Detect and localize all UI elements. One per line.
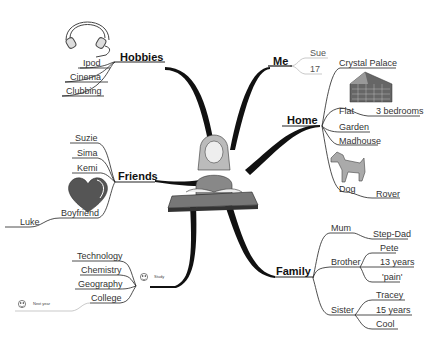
node-technology[interactable]: Technology <box>77 251 123 261</box>
node-college[interactable]: College <box>91 293 122 303</box>
node-clubbing[interactable]: Clubbing <box>66 86 102 96</box>
headphones-icon <box>65 22 110 57</box>
node-17[interactable]: 17 <box>310 64 320 74</box>
node-chemistry[interactable]: Chemistry <box>81 265 122 275</box>
node-crystal-palace[interactable]: Crystal Palace <box>339 58 397 68</box>
node-mum[interactable]: Mum <box>331 223 351 233</box>
node-3-bedrooms[interactable]: 3 bedrooms <box>376 106 424 116</box>
node-step-dad[interactable]: Step-Dad <box>373 229 411 239</box>
node-next-year[interactable]: Next year <box>33 301 50 306</box>
node-madhouse[interactable]: Madhouse <box>339 136 381 146</box>
node-study[interactable]: Study <box>154 274 164 279</box>
branch-label-hobbies[interactable]: Hobbies <box>120 51 163 63</box>
smiley-icon-study <box>140 273 147 280</box>
node-sister[interactable]: Sister <box>331 305 354 315</box>
node-garden[interactable]: Garden <box>339 122 369 132</box>
node-ipod[interactable]: Ipod <box>83 58 101 68</box>
branch-home <box>245 125 320 175</box>
node-boyfriend[interactable]: Boyfriend <box>61 208 99 218</box>
node-pete[interactable]: Pete <box>380 243 399 253</box>
node-geography[interactable]: Geography <box>78 279 123 289</box>
smiley-icon-next-year <box>18 300 25 307</box>
node-suzie[interactable]: Suzie <box>75 133 98 143</box>
branch-me <box>230 67 270 150</box>
node-cool[interactable]: Cool <box>376 319 395 329</box>
building-icon <box>350 72 392 102</box>
branch-label-friends[interactable]: Friends <box>118 170 158 182</box>
node-13-years[interactable]: 13 years <box>380 257 415 267</box>
node-pain[interactable]: 'pain' <box>382 272 402 282</box>
node-rover[interactable]: Rover <box>376 189 400 199</box>
node-flat[interactable]: Flat <box>339 106 354 116</box>
node-sue[interactable]: Sue <box>310 48 326 58</box>
branch-friends <box>155 180 200 186</box>
node-cinema[interactable]: Cinema <box>70 72 101 82</box>
mind-map-canvas <box>0 0 438 346</box>
node-tracey[interactable]: Tracey <box>376 290 403 300</box>
node-dog[interactable]: Dog <box>339 184 356 194</box>
node-kemi[interactable]: Kemi <box>77 163 98 173</box>
woman-at-desk-image <box>168 135 258 212</box>
clipped-heading-text <box>0 0 438 4</box>
heart-icon <box>69 178 108 212</box>
node-brother[interactable]: Brother <box>331 257 361 267</box>
node-15-years[interactable]: 15 years <box>376 305 411 315</box>
dog-icon <box>331 152 365 182</box>
branch-label-family[interactable]: Family <box>276 265 311 277</box>
branch-label-home[interactable]: Home <box>287 114 318 126</box>
node-luke[interactable]: Luke <box>20 217 40 227</box>
node-sima[interactable]: Sima <box>77 148 98 158</box>
branch-family <box>225 205 275 278</box>
branch-label-me[interactable]: Me <box>273 55 288 67</box>
